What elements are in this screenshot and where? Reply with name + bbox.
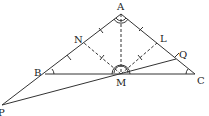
segment-AC bbox=[121, 14, 195, 74]
label-N: N bbox=[74, 34, 83, 45]
triangle-diagram: A N L Q B C M P bbox=[0, 0, 209, 116]
label-A: A bbox=[116, 1, 125, 12]
label-M: M bbox=[116, 77, 126, 88]
tick-NB bbox=[67, 55, 71, 60]
label-B: B bbox=[34, 67, 41, 78]
angle-arc-B bbox=[52, 69, 54, 74]
segment-PQ bbox=[2, 59, 176, 105]
label-Q: Q bbox=[179, 49, 187, 60]
label-L: L bbox=[160, 33, 167, 44]
label-P: P bbox=[0, 107, 5, 116]
label-C: C bbox=[197, 75, 205, 86]
angle-arc-C bbox=[186, 69, 188, 74]
